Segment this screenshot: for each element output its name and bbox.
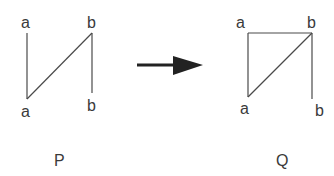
graph-p: a b a b P [21,14,96,169]
caption-q: Q [276,152,288,169]
edge-a-bottom-b-top [248,33,312,97]
caption-p: P [54,152,65,169]
diagram-canvas: a b a b P a b a b Q [0,0,334,176]
node-label-b-bottom: b [315,102,324,119]
edge-a-bottom-b-top [27,33,92,99]
transform-arrow-icon [137,56,203,75]
graph-q: a b a b Q [236,14,324,169]
node-label-b-bottom: b [87,97,96,114]
node-label-a-top: a [236,14,245,31]
node-label-a-top: a [21,14,30,31]
node-label-b-top: b [87,14,96,31]
node-label-b-top: b [307,14,316,31]
node-label-a-bottom: a [21,103,30,120]
node-label-a-bottom: a [240,100,249,117]
